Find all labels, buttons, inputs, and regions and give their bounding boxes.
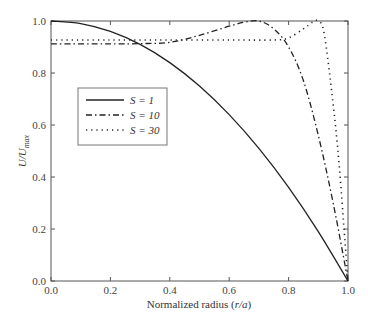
tick-labels: 0.00.20.40.60.81.00.00.20.40.60.81.0: [32, 15, 355, 296]
plot-frame: [51, 21, 348, 281]
legend-label-s1: S = 1: [130, 94, 154, 106]
x-tick-label: 0.2: [104, 284, 118, 296]
chart: 0.00.20.40.60.81.00.00.20.40.60.81.0 U/U…: [0, 0, 368, 323]
y-tick-label: 0.4: [32, 171, 46, 183]
x-tick-label: 0.6: [222, 284, 236, 296]
axis-ticks: [51, 21, 348, 281]
legend: S = 1 S = 10 S = 30: [78, 88, 167, 145]
x-tick-label: 0.8: [282, 284, 296, 296]
x-tick-label: 0.0: [44, 284, 58, 296]
curves: [51, 20, 348, 281]
curve-dotted: [51, 20, 348, 281]
x-tick-label: 0.4: [163, 284, 177, 296]
y-tick-label: 0.8: [32, 67, 46, 79]
y-tick-label: 1.0: [32, 15, 46, 27]
curve-dash-dot: [51, 21, 348, 281]
y-tick-label: 0.6: [32, 119, 46, 131]
x-axis-label: Normalized radius (r/a): [147, 298, 252, 311]
curve-solid: [51, 21, 348, 281]
y-tick-label: 0.0: [32, 275, 46, 287]
legend-label-s30: S = 30: [130, 124, 160, 136]
x-tick-label: 1.0: [341, 284, 355, 296]
legend-label-s10: S = 10: [130, 109, 160, 121]
y-tick-label: 0.2: [32, 223, 46, 235]
y-axis-label: U/Umax: [16, 134, 31, 167]
